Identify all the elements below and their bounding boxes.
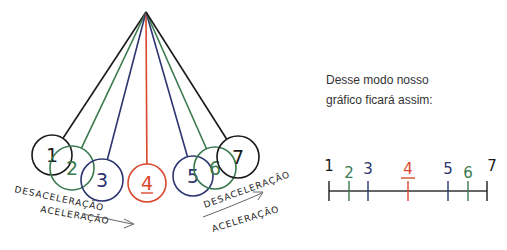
- tick-label: 7: [487, 157, 497, 175]
- pendulum-string-4: [146, 12, 147, 164]
- pendulum-ball-5: 5: [173, 156, 213, 196]
- pendulum-diagram: 1234567 DESACELERAÇÃO ACELERAÇÃO DESACEL…: [0, 0, 507, 250]
- ball-label: 7: [232, 146, 244, 168]
- tick-label: 2: [344, 164, 354, 182]
- pendulum-strings: [63, 12, 227, 164]
- timeline-tick-6: 6: [463, 164, 473, 201]
- timeline-tick-4: 4: [401, 160, 415, 201]
- pendulum-string-3: [107, 12, 146, 160]
- pendulum-ball-3: 3: [81, 159, 123, 201]
- timeline-tick-3: 3: [363, 160, 373, 201]
- timeline-tick-7: 7: [487, 157, 497, 201]
- timeline-tick-5: 5: [443, 160, 453, 201]
- caption-line-2: gráfico ficará assim:: [326, 90, 433, 110]
- pendulum-ball-7: 7: [217, 136, 259, 178]
- ball-label: 3: [96, 169, 108, 191]
- pendulum-string-5: [146, 12, 187, 157]
- timeline-tick-2: 2: [344, 164, 354, 201]
- ball-label: 2: [66, 157, 78, 179]
- caption: Desse modo nosso gráfico ficará assim:: [326, 70, 433, 110]
- timeline-tick-1: 1: [324, 157, 334, 201]
- pendulum-string-6: [146, 12, 207, 149]
- left-motion-labels: DESACELERAÇÃO ACELERAÇÃO: [14, 184, 134, 228]
- tick-label: 3: [363, 160, 373, 178]
- ball-label: 1: [46, 144, 58, 166]
- tick-label: 5: [443, 160, 453, 178]
- ball-label: 5: [187, 165, 199, 187]
- pendulum-string-1: [63, 12, 146, 138]
- ball-label: 4: [141, 172, 153, 194]
- caption-line-1: Desse modo nosso: [326, 70, 433, 90]
- timeline-graph: 1234567: [324, 157, 497, 201]
- tick-label: 6: [463, 164, 473, 182]
- pendulum-string-7: [146, 12, 227, 139]
- right-acceleration-label: ACELERAÇÃO: [211, 204, 281, 234]
- pendulum-string-2: [81, 12, 146, 148]
- tick-label: 1: [324, 157, 334, 175]
- pendulum-ball-4: 4: [128, 164, 166, 202]
- pendulum-ball-6: 6: [194, 147, 236, 189]
- tick-label: 4: [403, 160, 413, 178]
